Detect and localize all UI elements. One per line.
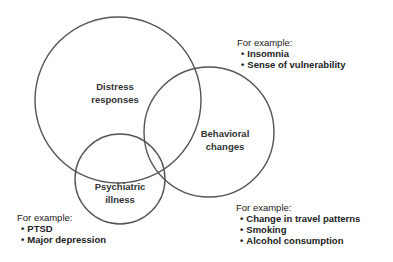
example-item: Insomnia [241, 48, 346, 59]
example-item: PTSD [21, 223, 106, 234]
distress-responses-label: Distress responses [91, 80, 139, 106]
distress-examples: For example: Insomnia Sense of vulnerabi… [237, 37, 346, 70]
label-line: illness [95, 193, 146, 206]
examples-heading: For example: [237, 37, 346, 48]
behavioral-changes-label: Behavioral changes [201, 127, 250, 153]
psychiatric-illness-circle [75, 134, 165, 224]
example-item: Sense of vulnerability [241, 59, 346, 70]
example-item: Smoking [240, 224, 360, 235]
examples-heading: For example: [17, 212, 106, 223]
psychiatric-examples: For example: PTSD Major depression [17, 212, 106, 245]
behavioral-examples: For example: Change in travel patterns S… [236, 202, 360, 246]
label-line: changes [201, 140, 250, 153]
label-line: Distress [91, 80, 139, 93]
label-line: Psychiatric [95, 180, 146, 193]
psychiatric-illness-label: Psychiatric illness [95, 180, 146, 206]
example-item: Alcohol consumption [240, 235, 360, 246]
label-line: responses [91, 93, 139, 106]
example-item: Major depression [21, 234, 106, 245]
example-item: Change in travel patterns [240, 213, 360, 224]
label-line: Behavioral [201, 127, 250, 140]
examples-heading: For example: [236, 202, 360, 213]
